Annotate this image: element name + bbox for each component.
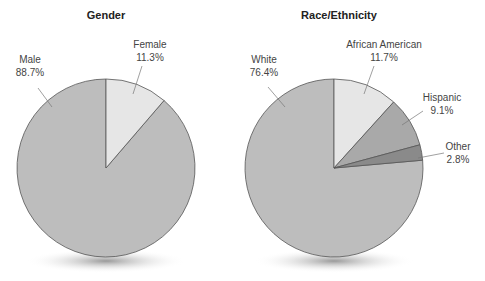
label-hispanic-pct: 9.1%	[418, 104, 466, 117]
label-other: Other 2.8%	[440, 140, 476, 166]
label-white-name: White	[244, 53, 284, 66]
label-hispanic: Hispanic 9.1%	[418, 91, 466, 117]
gender-chart-title: Gender	[66, 9, 146, 21]
label-female-name: Female	[128, 38, 172, 51]
label-female-pct: 11.3%	[128, 51, 172, 64]
label-aa-pct: 11.7%	[336, 51, 432, 64]
gender-pie	[17, 79, 195, 257]
label-other-name: Other	[440, 140, 476, 153]
label-aa-name: African American	[336, 38, 432, 51]
label-white: White 76.4%	[244, 53, 284, 79]
label-male-pct: 88.7%	[10, 66, 50, 79]
race-pie	[245, 79, 423, 257]
label-hispanic-name: Hispanic	[418, 91, 466, 104]
label-white-pct: 76.4%	[244, 66, 284, 79]
race-chart-title: Race/Ethnicity	[284, 9, 394, 21]
label-male: Male 88.7%	[10, 53, 50, 79]
label-male-name: Male	[10, 53, 50, 66]
label-african-american: African American 11.7%	[336, 38, 432, 64]
label-other-pct: 2.8%	[440, 153, 476, 166]
label-female: Female 11.3%	[128, 38, 172, 64]
